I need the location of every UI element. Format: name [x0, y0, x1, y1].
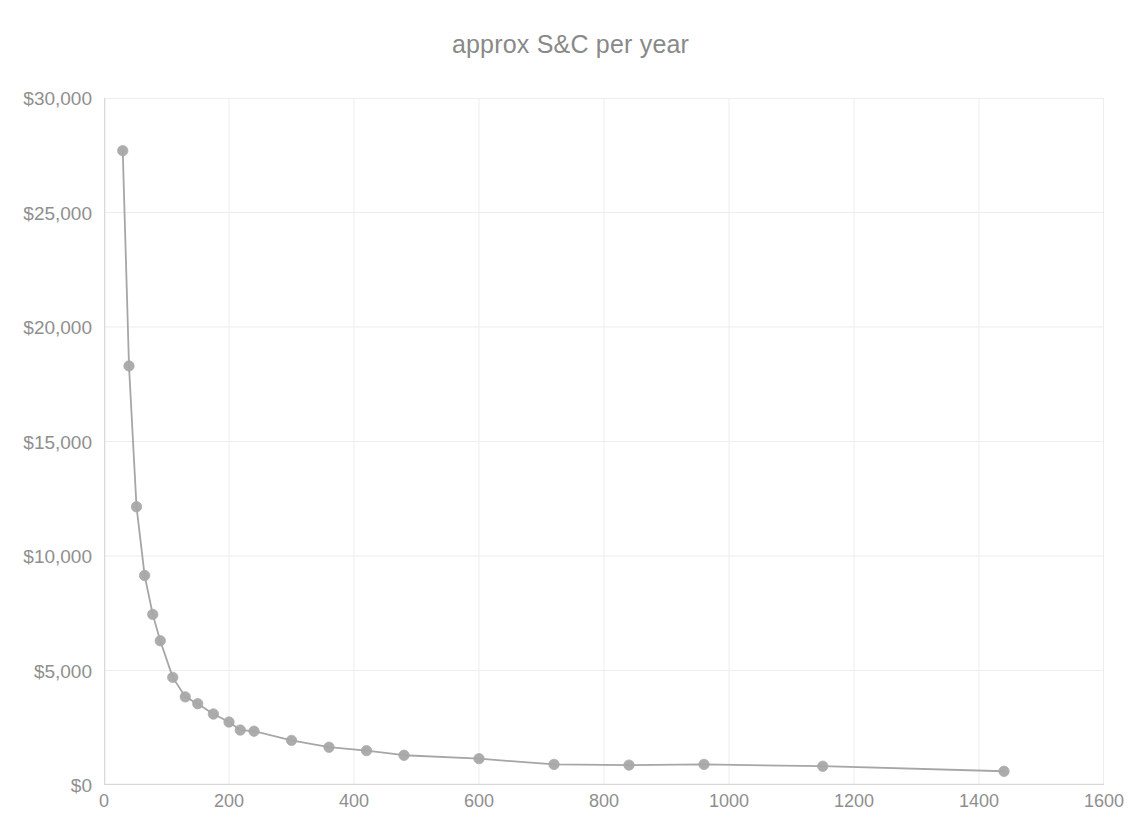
data-point: [118, 145, 128, 155]
y-tick-label: $20,000: [0, 318, 92, 337]
data-point: [361, 745, 371, 755]
x-tick-label: 600: [464, 792, 494, 810]
data-point: [124, 361, 134, 371]
y-tick-label: $30,000: [0, 89, 92, 108]
series-line-0: [123, 151, 1004, 772]
data-point: [999, 766, 1009, 776]
y-tick-label: $5,000: [0, 661, 92, 680]
data-point: [131, 502, 141, 512]
data-point: [699, 759, 709, 769]
x-tick-label: 800: [589, 792, 619, 810]
data-point: [193, 699, 203, 709]
data-point: [624, 760, 634, 770]
data-point: [286, 735, 296, 745]
plot-area: [104, 98, 1104, 785]
x-tick-label: 1200: [834, 792, 874, 810]
data-point: [139, 570, 149, 580]
x-tick-label: 400: [339, 792, 369, 810]
series-line-group: [123, 151, 1004, 772]
data-point: [155, 636, 165, 646]
y-tick-label: $0: [0, 776, 92, 795]
data-point: [168, 672, 178, 682]
data-point: [148, 609, 158, 619]
chart-title: approx S&C per year: [0, 30, 1141, 59]
data-point: [474, 753, 484, 763]
x-tick-label: 1400: [959, 792, 999, 810]
data-point: [224, 717, 234, 727]
series-marker-group: [118, 145, 1010, 776]
y-tick-label: $25,000: [0, 203, 92, 222]
y-tick-label: $10,000: [0, 547, 92, 566]
chart-plot-svg: [104, 98, 1104, 785]
data-point: [235, 725, 245, 735]
x-axis-tick-labels: 02004006008001000120014001600: [104, 792, 1104, 822]
data-point: [549, 759, 559, 769]
data-point: [249, 726, 259, 736]
data-point: [399, 750, 409, 760]
data-point: [818, 761, 828, 771]
x-tick-label: 1600: [1084, 792, 1124, 810]
y-tick-label: $15,000: [0, 432, 92, 451]
data-point: [180, 692, 190, 702]
x-tick-label: 200: [214, 792, 244, 810]
data-point: [324, 742, 334, 752]
x-tick-label: 1000: [709, 792, 749, 810]
data-point: [208, 709, 218, 719]
y-axis-tick-labels: $0$5,000$10,000$15,000$20,000$25,000$30,…: [0, 98, 92, 785]
chart-container: approx S&C per year $0$5,000$10,000$15,0…: [0, 0, 1141, 830]
x-tick-label: 0: [99, 792, 109, 810]
